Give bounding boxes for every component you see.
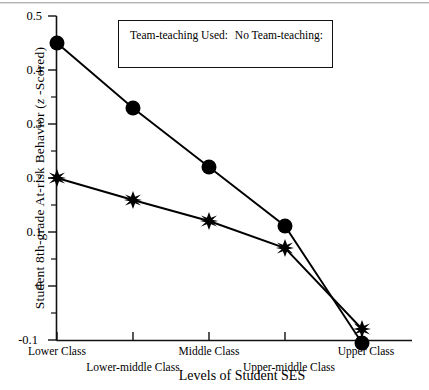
data-point-star-middle-class <box>200 212 218 230</box>
legend-label-team-teaching-used: Team-teaching Used: <box>128 29 230 41</box>
y-tick-label-1: 0.4 <box>8 63 42 78</box>
x-axis-title: Levels of Student SES <box>56 368 428 384</box>
data-point-circle-upper-middle-class <box>278 219 293 234</box>
x-tick-label-upper-class: Upper Class <box>338 345 395 357</box>
y-tick-label-3: 0.2 <box>8 171 42 186</box>
y-tick-label-2: 0.3 <box>8 117 42 132</box>
legend-labels: Team-teaching Used: No Team-teaching: <box>119 29 334 41</box>
data-point-star-lower-middle-class <box>124 191 142 209</box>
data-point-circle-lower-middle-class <box>126 101 141 116</box>
y-tick-label-0: 0.5 <box>8 9 42 24</box>
legend-label-no-team-teaching: No Team-teaching: <box>233 29 325 41</box>
x-tick-label-lower-class: Lower Class <box>28 345 86 357</box>
legend-box: Team-teaching Used: No Team-teaching: <box>118 20 333 68</box>
x-tick-label-middle-class: Middle Class <box>178 345 239 357</box>
data-point-star-lower-class <box>48 169 66 187</box>
chart-figure: Student 8th-grade At-risk Behavior (z -S… <box>0 0 429 390</box>
series-no-team-teaching <box>48 169 371 338</box>
x-axis-ticks <box>57 332 362 341</box>
y-tick-label-4: 0.1 <box>8 225 42 240</box>
y-tick-label-5: 0 <box>8 279 42 294</box>
data-point-circle-middle-class <box>202 160 217 175</box>
data-point-circle-lower-class <box>50 36 65 51</box>
series-team-teaching-used <box>50 36 370 351</box>
